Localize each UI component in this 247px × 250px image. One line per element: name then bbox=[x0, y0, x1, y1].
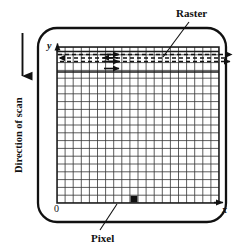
diagram-canvas bbox=[0, 0, 247, 250]
highlighted-pixel bbox=[131, 196, 138, 203]
pixel-label: Pixel bbox=[91, 233, 114, 244]
x-axis-label: x bbox=[222, 205, 227, 215]
raster-scan-diagram: Raster Pixel Direction of scan y x 0 bbox=[0, 0, 247, 250]
direction-of-scan-label: Direction of scan bbox=[14, 80, 25, 190]
origin-label: 0 bbox=[54, 204, 59, 214]
y-axis-label: y bbox=[47, 41, 51, 51]
pixel-grid bbox=[57, 47, 219, 203]
raster-label: Raster bbox=[176, 8, 207, 19]
